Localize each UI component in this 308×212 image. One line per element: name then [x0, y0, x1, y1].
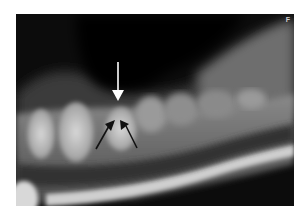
- radiograph-image: F: [16, 14, 294, 206]
- radiograph-drawing: [16, 14, 294, 206]
- corner-label: F: [286, 16, 290, 23]
